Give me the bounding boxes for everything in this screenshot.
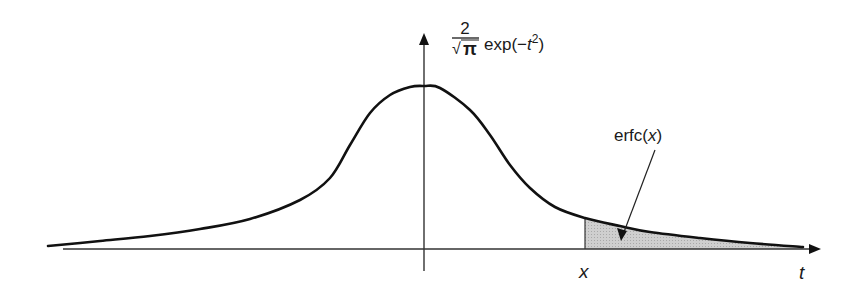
annotation-arrow-line [624, 150, 655, 232]
y-label-numerator: 2 [460, 19, 469, 38]
y-axis-arrowhead-icon [419, 33, 429, 45]
y-label-pi: π [463, 39, 477, 59]
erfc-diagram: 2 √ π exp(−t2) erfc(x) x t [0, 0, 859, 291]
y-label-function: exp(−t2) [484, 32, 544, 54]
y-label-radical: √ [452, 40, 461, 57]
t-axis-arrowhead-icon [809, 244, 821, 254]
gaussian-curve [48, 86, 803, 247]
t-axis-label: t [799, 262, 805, 283]
y-axis-label: 2 √ π exp(−t2) [452, 19, 544, 59]
x-cut-label: x [578, 261, 590, 282]
erfc-annotation-label: erfc(x) [614, 126, 662, 145]
